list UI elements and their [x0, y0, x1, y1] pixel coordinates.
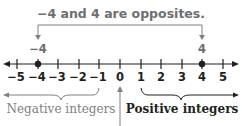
tick-label: 5 [219, 70, 227, 84]
point-4 [199, 61, 205, 67]
tick-label: −4 [28, 70, 46, 84]
positive-integers-label: Positive integers [126, 102, 239, 116]
tick-labels: −5 −4 −3 −2 −1 0 1 2 3 4 5 [7, 70, 227, 84]
number-line [3, 59, 239, 69]
arrow-left-icon [3, 93, 9, 98]
opposites-bracket [38, 25, 202, 36]
diagram-title: −4 and 4 are opposites. [37, 6, 205, 21]
arrow-right-icon [232, 61, 239, 67]
tick-label: −1 [89, 70, 107, 84]
tick-label: −2 [69, 70, 87, 84]
tick-label: 4 [198, 70, 206, 84]
tick-label: 1 [137, 70, 145, 84]
negative-brace [6, 88, 99, 100]
arrow-up-icon [117, 86, 123, 92]
point-label-4: 4 [198, 42, 206, 56]
negative-integers-label: Negative integers [7, 102, 116, 116]
point-label-neg4: −4 [29, 42, 47, 56]
bracket-arrowheads [35, 35, 205, 40]
arrow-down-icon [199, 35, 205, 40]
number-line-diagram: −4 and 4 are opposites. −4 4 [0, 0, 242, 126]
tick-label: 0 [116, 70, 124, 84]
tick-label: 2 [157, 70, 165, 84]
point-neg4 [35, 61, 41, 67]
arrow-left-icon [3, 61, 10, 67]
tick-label: −5 [7, 70, 25, 84]
tick-label: 3 [178, 70, 186, 84]
tick-label: −3 [48, 70, 66, 84]
positive-brace [141, 88, 234, 100]
arrow-right-icon [233, 93, 239, 98]
arrow-down-icon [35, 35, 41, 40]
